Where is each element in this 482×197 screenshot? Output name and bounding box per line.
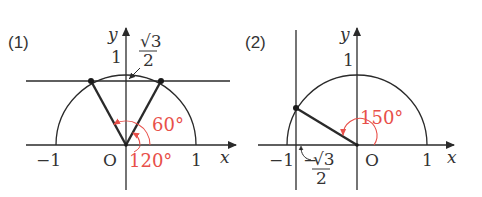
tick-one-y: 1 bbox=[343, 50, 354, 70]
fraction-denominator: 2 bbox=[316, 168, 327, 188]
radius-150 bbox=[296, 108, 357, 145]
y-axis-label: y bbox=[339, 24, 350, 44]
origin-point bbox=[355, 143, 359, 147]
origin-point bbox=[124, 143, 128, 147]
fraction-denominator: 2 bbox=[143, 50, 154, 70]
x-axis-label: x bbox=[447, 147, 457, 167]
radius-120 bbox=[91, 81, 126, 145]
panel-1: (1) 60° 120° O −1 1 x y 1 √3 2 bbox=[8, 24, 236, 190]
fraction-numerator: √3 bbox=[313, 149, 335, 169]
y-axis-label: y bbox=[107, 24, 118, 44]
tick-neg-one: −1 bbox=[36, 150, 61, 170]
tick-one-y: 1 bbox=[111, 47, 122, 67]
intersection-point bbox=[293, 105, 299, 111]
origin-label: O bbox=[103, 150, 117, 170]
angle-150-label: 150° bbox=[360, 107, 403, 128]
angle-60-label: 60° bbox=[152, 114, 184, 135]
x-axis-label: x bbox=[220, 147, 230, 167]
tick-one-x: 1 bbox=[422, 150, 433, 170]
intersection-point-left bbox=[88, 78, 94, 84]
panel-2-label: (2) bbox=[245, 33, 266, 52]
angle-60-arc bbox=[133, 133, 140, 145]
fraction-numerator: √3 bbox=[140, 31, 162, 51]
tick-one-x: 1 bbox=[191, 150, 202, 170]
panel-1-label: (1) bbox=[8, 33, 29, 52]
angle-120-label: 120° bbox=[129, 150, 172, 171]
origin-label: O bbox=[365, 150, 379, 170]
unit-circle-figure: (1) 60° 120° O −1 1 x y 1 √3 2 bbox=[0, 0, 482, 197]
intersection-point-right bbox=[158, 78, 164, 84]
annotation-leader bbox=[129, 68, 140, 79]
radius-60 bbox=[126, 81, 161, 145]
panel-2: (2) 150° O −1 1 x y 1 − √3 2 bbox=[245, 24, 457, 190]
tick-neg-one: −1 bbox=[269, 150, 294, 170]
